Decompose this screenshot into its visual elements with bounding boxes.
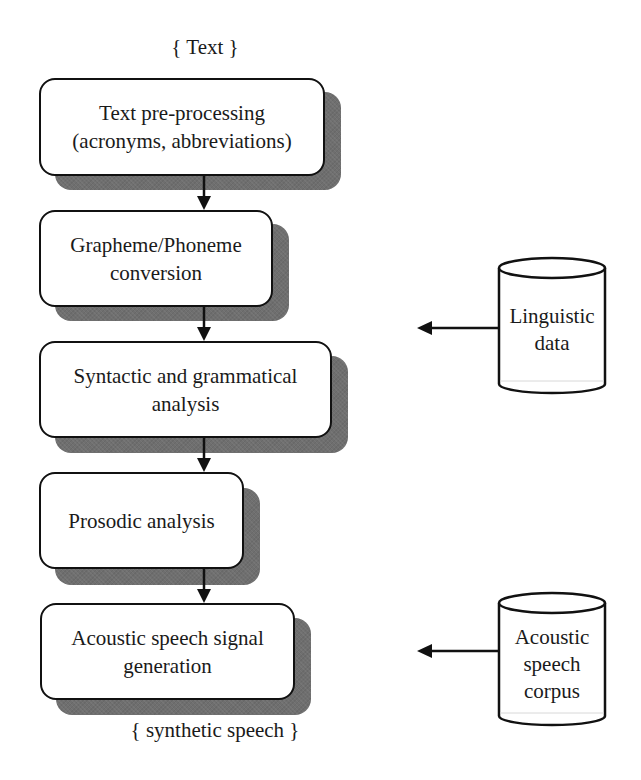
store-label-line: data bbox=[535, 330, 570, 357]
output-label: { synthetic speech } bbox=[120, 718, 310, 742]
arrow-linguistic-data-to-pipeline bbox=[417, 321, 499, 335]
step-label-line: generation bbox=[71, 652, 263, 680]
acoustic-corpus-label: Acoustic speech corpus bbox=[499, 616, 605, 712]
step-syntactic-grammatical-analysis: Syntactic and grammatical analysis bbox=[39, 341, 332, 438]
step-label-line: Text pre-processing bbox=[72, 99, 291, 127]
store-label-line: Linguistic bbox=[509, 303, 594, 330]
input-label: { Text } bbox=[150, 35, 260, 59]
step-label-line: (acronyms, abbreviations) bbox=[72, 127, 291, 155]
step-label-line: Syntactic and grammatical bbox=[74, 362, 298, 390]
tts-pipeline-diagram: { Text } Text pre-processing (acronyms, … bbox=[0, 0, 641, 780]
step-text-preprocessing: Text pre-processing (acronyms, abbreviat… bbox=[39, 78, 325, 176]
step-label-line: analysis bbox=[74, 390, 298, 418]
store-label-line: corpus bbox=[524, 678, 580, 705]
step-label-line: Prosodic analysis bbox=[68, 507, 214, 535]
store-label-line: Acoustic bbox=[515, 624, 590, 651]
step-label-line: conversion bbox=[70, 259, 241, 287]
step-prosodic-analysis: Prosodic analysis bbox=[39, 472, 244, 569]
linguistic-data-label: Linguistic data bbox=[499, 282, 605, 378]
step-acoustic-signal-generation: Acoustic speech signal generation bbox=[40, 603, 295, 700]
arrow-acoustic-corpus-to-pipeline bbox=[417, 644, 499, 658]
step-label-line: Grapheme/Phoneme bbox=[70, 231, 241, 259]
step-label-line: Acoustic speech signal bbox=[71, 624, 263, 652]
store-label-line: speech bbox=[523, 651, 580, 678]
step-grapheme-phoneme-conversion: Grapheme/Phoneme conversion bbox=[39, 210, 273, 307]
